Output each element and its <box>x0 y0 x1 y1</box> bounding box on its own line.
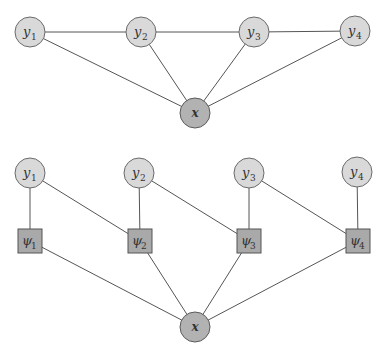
edge-y2-psi3 <box>139 173 249 241</box>
bottom-node-y3: y 3 <box>234 158 264 188</box>
label-sub: 4 <box>356 31 362 41</box>
bottom-node-y4: y 4 <box>342 157 372 187</box>
bottom-node-y1: y 1 <box>15 158 45 188</box>
factor-psi2: ψ 2 <box>128 229 152 253</box>
label-sub: 2 <box>141 241 147 251</box>
label-y: y <box>133 24 142 39</box>
edge-y3-psi4 <box>249 173 358 241</box>
label-y: y <box>22 165 31 180</box>
label-sub: 1 <box>31 241 37 251</box>
label-sub: 2 <box>142 32 148 42</box>
label-sub: 3 <box>250 173 256 183</box>
label-y: y <box>347 23 356 38</box>
label-sub: 1 <box>31 32 37 42</box>
label-sub: 4 <box>359 241 365 251</box>
label-y: y <box>349 164 358 179</box>
edge-psi4-x <box>195 241 358 327</box>
bottom-node-x: x <box>180 312 210 342</box>
label-sub: 2 <box>140 173 146 183</box>
edge-psi1-x <box>30 241 195 327</box>
top-node-x: x <box>180 98 210 128</box>
bottom-edges <box>30 172 358 327</box>
bottom-node-y2: y 2 <box>124 158 154 188</box>
label-y: y <box>131 165 140 180</box>
factor-psi4: ψ 4 <box>346 229 370 253</box>
label-sub: 3 <box>255 32 261 42</box>
top-node-y2: y 2 <box>126 17 156 47</box>
edge-y1-psi2 <box>30 173 140 241</box>
top-node-y4: y 4 <box>340 16 370 46</box>
factor-psi1: ψ 1 <box>18 229 42 253</box>
label-sub: 4 <box>358 172 364 182</box>
label-y: y <box>246 24 255 39</box>
label-sub: 1 <box>31 173 37 183</box>
label-y: y <box>241 165 250 180</box>
edge-y1-x <box>30 32 195 113</box>
bottom-graph: y 1 y 2 y 3 y 4 ψ 1 ψ 2 ψ <box>15 157 372 342</box>
factor-psi3: ψ 3 <box>237 229 261 253</box>
edge-y4-x <box>195 31 355 113</box>
label-x: x <box>190 106 199 120</box>
top-graph: y 1 y 2 y 3 y 4 x <box>15 16 370 128</box>
top-node-y1: y 1 <box>15 17 45 47</box>
diagram-canvas: y 1 y 2 y 3 y 4 x <box>0 0 386 352</box>
label-sub: 3 <box>250 241 256 251</box>
top-node-y3: y 3 <box>239 17 269 47</box>
label-y: y <box>22 24 31 39</box>
label-x: x <box>190 320 199 334</box>
